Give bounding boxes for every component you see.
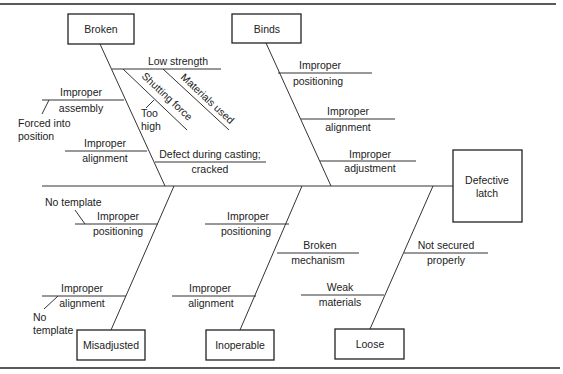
cause-no-template-bottom-l1: No: [33, 311, 47, 323]
cause-line-no-template-top: [75, 210, 85, 224]
cause-no-template-top: No template: [45, 196, 102, 208]
cause-not-secured-l2: properly: [427, 254, 466, 266]
cause-not-secured-l1: Not secured: [418, 239, 475, 251]
cause-broken-mechanism-l2: mechanism: [291, 254, 345, 266]
cause-improper-alignment-inop-l1: Improper: [189, 282, 232, 294]
cause-improper-positioning-inop-l2: positioning: [221, 225, 271, 237]
category-label-broken: Broken: [84, 23, 117, 35]
cause-broken-mechanism-l1: Broken: [303, 239, 336, 251]
effect-label-l1: Defective: [465, 174, 509, 186]
cause-forced-into-position-l1: Forced into: [18, 117, 71, 129]
fishbone-diagram: Broken Low strength Materials used Shutt…: [0, 0, 563, 374]
cause-line-forced-into-position: [42, 100, 49, 114]
cause-improper-alignment-misadj-l2: alignment: [59, 297, 105, 309]
cause-weak-materials-l2: materials: [319, 296, 362, 308]
cause-line-no-template-bottom: [44, 296, 58, 309]
cause-improper-alignment-binds-l2: alignment: [325, 121, 371, 133]
cause-too-high-l1: Too: [141, 107, 158, 119]
cause-improper-assembly-l1: Improper: [60, 86, 103, 98]
bone-misadjusted: [111, 186, 174, 330]
cause-improper-positioning-misadj-l1: Improper: [97, 210, 140, 222]
cause-improper-assembly-l2: assembly: [59, 102, 104, 114]
cause-weak-materials-l1: Weak: [327, 281, 354, 293]
cause-improper-positioning-misadj-l2: positioning: [93, 225, 143, 237]
cause-improper-adjustment-l1: Improper: [349, 148, 392, 160]
cause-improper-positioning-binds-l1: Improper: [299, 59, 342, 71]
cause-improper-positioning-inop-l1: Improper: [227, 210, 270, 222]
category-label-misadjusted: Misadjusted: [83, 339, 139, 351]
cause-improper-positioning-binds-l2: positioning: [293, 75, 343, 87]
cause-defect-casting-l2: cracked: [192, 163, 229, 175]
effect-box: [453, 150, 522, 222]
category-label-binds: Binds: [254, 23, 280, 35]
cause-improper-alignment-inop-l2: alignment: [188, 297, 234, 309]
effect-label-l2: latch: [476, 187, 498, 199]
cause-forced-into-position-l2: position: [18, 130, 54, 142]
cause-improper-alignment-broken-l1: Improper: [84, 137, 127, 149]
cause-improper-alignment-broken-l2: alignment: [82, 152, 128, 164]
cause-no-template-bottom-l2: template: [33, 324, 73, 336]
cause-improper-adjustment-l2: adjustment: [344, 162, 395, 174]
bone-loose: [370, 186, 433, 329]
cause-too-high-l2: high: [141, 120, 161, 132]
cause-improper-alignment-binds-l1: Improper: [327, 105, 370, 117]
cause-defect-casting-l1: Defect during casting;: [159, 148, 261, 160]
category-label-loose: Loose: [356, 338, 385, 350]
cause-improper-alignment-misadj-l1: Improper: [61, 282, 104, 294]
category-label-inoperable: Inoperable: [215, 339, 265, 351]
cause-low-strength: Low strength: [148, 55, 208, 67]
